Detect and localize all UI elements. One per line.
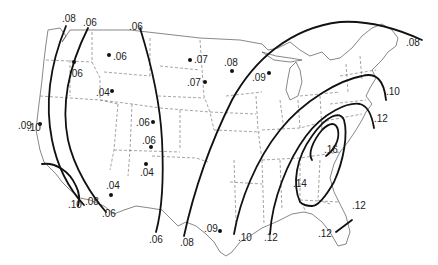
label-06: .06 xyxy=(102,208,116,219)
label-06: .06 xyxy=(129,21,143,32)
station-label: .06 xyxy=(142,135,156,146)
label-10: .10 xyxy=(238,232,252,243)
label-12: .12 xyxy=(352,200,366,211)
station-label: .06 xyxy=(113,51,127,62)
station-label: .04 xyxy=(96,87,110,98)
label-10: .10 xyxy=(386,86,400,97)
label-14: .14 xyxy=(293,178,307,189)
station-dot xyxy=(107,53,111,57)
station-dot xyxy=(230,69,234,73)
station-dot xyxy=(203,80,207,84)
contour-08-west xyxy=(49,26,84,205)
station-dot xyxy=(188,58,192,62)
us-outline xyxy=(36,24,398,256)
contour-labels: .08 .06 .06 .08 .10 .12 .10 .10 .08 .06 … xyxy=(27,13,420,248)
station-label: .09 xyxy=(252,72,266,83)
contour-map: .08 .06 .06 .08 .10 .12 .10 .10 .08 .06 … xyxy=(0,0,438,265)
label-06: .06 xyxy=(83,17,97,28)
label-08: .08 xyxy=(85,196,99,207)
station-label: .08 xyxy=(224,57,238,68)
label-08: .08 xyxy=(62,13,76,24)
contour-06-rockies xyxy=(140,28,163,232)
label-10: .10 xyxy=(68,199,82,210)
label-12: .12 xyxy=(374,113,388,124)
station-dot xyxy=(267,71,271,75)
label-08: .08 xyxy=(180,237,194,248)
station-dot xyxy=(109,193,113,197)
station-label: .09 xyxy=(18,120,32,131)
station-label: .04 xyxy=(140,167,154,178)
station-label: .09 xyxy=(204,223,218,234)
label-06: .06 xyxy=(149,234,163,245)
station-label: .07 xyxy=(187,77,201,88)
michigan-outline xyxy=(286,62,302,100)
station-dot xyxy=(72,60,76,64)
station-dot xyxy=(110,89,114,93)
station-dot xyxy=(151,120,155,124)
station-label: .04 xyxy=(106,180,120,191)
station-dot xyxy=(218,229,222,233)
label-12: .12 xyxy=(318,228,332,239)
station-label: .07 xyxy=(194,54,208,65)
station-dot xyxy=(144,162,148,166)
label-12: .12 xyxy=(264,232,278,243)
label-08: .08 xyxy=(406,37,420,48)
contour-06-west xyxy=(65,28,106,212)
station-label: .06 xyxy=(69,68,83,79)
label-16: .16 xyxy=(324,144,338,155)
station-label: .06 xyxy=(136,117,150,128)
